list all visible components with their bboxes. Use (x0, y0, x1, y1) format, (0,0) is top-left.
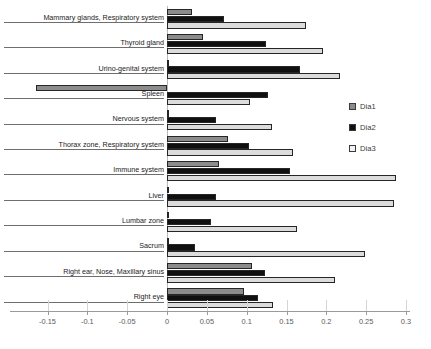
x-gridline (207, 300, 208, 311)
bar-dia2 (167, 66, 300, 72)
bar-dia1 (36, 85, 167, 91)
chart-category-row: Mammary glands, Respiratory system (0, 6, 431, 31)
chart-legend: Dia1Dia2Dia3 (349, 96, 419, 159)
x-tick-mark (406, 311, 407, 315)
x-gridline (287, 300, 288, 311)
x-tick-mark (87, 311, 88, 315)
bar-dia1 (167, 9, 192, 15)
bar-dia3 (167, 48, 323, 54)
x-tick-label: 0.3 (401, 317, 411, 326)
x-tick-label: 0.25 (359, 317, 373, 326)
legend-item-dia2[interactable]: Dia2 (349, 117, 419, 138)
bar-dia1 (167, 288, 244, 294)
x-tick-label: 0.1 (242, 317, 252, 326)
bar-dia3 (167, 251, 365, 257)
legend-label: Dia1 (360, 102, 376, 111)
x-gridline (406, 300, 407, 311)
legend-label: Dia3 (360, 144, 376, 153)
x-tick-label: 0 (165, 317, 169, 326)
bar-dia2 (167, 295, 258, 301)
x-tick-label: -0.05 (119, 317, 136, 326)
x-gridline (127, 300, 128, 311)
x-tick-label: 0.15 (279, 317, 293, 326)
chart-category-row: Liver (0, 184, 431, 209)
x-gridline (247, 300, 248, 311)
x-tick-mark (167, 311, 168, 315)
category-bar-group (0, 209, 431, 234)
category-bar-group (0, 57, 431, 82)
x-gridline (167, 300, 168, 311)
x-tick-label: 0.2 (321, 317, 331, 326)
bar-dia2 (167, 194, 216, 200)
bar-dia1 (167, 136, 228, 142)
x-gridline (48, 300, 49, 311)
bar-dia2 (167, 16, 224, 22)
legend-item-dia1[interactable]: Dia1 (349, 96, 419, 117)
x-tick-label: 0.05 (200, 317, 214, 326)
bar-dia3 (167, 124, 272, 130)
horizontal-bar-chart: Mammary glands, Respiratory systemThyroi… (0, 0, 431, 349)
x-gridline (87, 300, 88, 311)
legend-swatch-icon (349, 124, 356, 131)
bar-dia1 (167, 110, 169, 116)
bar-dia2 (167, 219, 211, 225)
category-bar-group (0, 235, 431, 260)
bar-dia3 (167, 22, 306, 28)
x-gridline (366, 300, 367, 311)
legend-label: Dia2 (360, 123, 376, 132)
bar-dia2 (167, 244, 195, 250)
x-tick-mark (48, 311, 49, 315)
legend-swatch-icon (349, 145, 356, 152)
category-bar-group (0, 184, 431, 209)
bar-dia3 (167, 277, 335, 283)
bar-dia1 (167, 161, 219, 167)
bar-dia3 (167, 226, 297, 232)
x-tick-mark (366, 311, 367, 315)
bar-dia2 (167, 41, 266, 47)
x-tick-mark (326, 311, 327, 315)
bar-dia1 (167, 263, 252, 269)
chart-category-row: Immune system (0, 159, 431, 184)
bar-dia3 (167, 73, 340, 79)
x-tick-mark (287, 311, 288, 315)
bar-dia3 (167, 175, 396, 181)
legend-item-dia3[interactable]: Dia3 (349, 138, 419, 159)
bar-dia1 (167, 34, 203, 40)
category-bar-group (0, 260, 431, 285)
bar-dia2 (167, 92, 268, 98)
x-gridline (326, 300, 327, 311)
x-tick-mark (207, 311, 208, 315)
x-tick-mark (127, 311, 128, 315)
category-bar-group (0, 159, 431, 184)
bar-dia2 (167, 270, 265, 276)
chart-category-row: Lumbar zone (0, 209, 431, 234)
bar-dia2 (167, 143, 249, 149)
chart-category-row: Right ear, Nose, Maxillary sinus (0, 260, 431, 285)
legend-swatch-icon (349, 103, 356, 110)
bar-dia3 (167, 99, 250, 105)
bar-dia1 (167, 187, 169, 193)
bar-dia1 (167, 212, 169, 218)
category-bar-group (0, 31, 431, 56)
chart-category-row: Urino-genital system (0, 57, 431, 82)
category-bar-group (0, 6, 431, 31)
bar-dia3 (167, 149, 293, 155)
bar-dia2 (167, 117, 216, 123)
chart-category-row: Thyroid gland (0, 31, 431, 56)
x-axis-line (10, 311, 410, 312)
chart-category-row: Sacrum (0, 235, 431, 260)
x-tick-label: -0.15 (39, 317, 56, 326)
bar-dia2 (167, 168, 290, 174)
bar-dia1 (167, 60, 169, 66)
bar-dia3 (167, 200, 394, 206)
bar-dia3 (167, 302, 273, 308)
x-tick-label: -0.1 (81, 317, 94, 326)
bar-dia1 (167, 238, 169, 244)
x-tick-mark (247, 311, 248, 315)
